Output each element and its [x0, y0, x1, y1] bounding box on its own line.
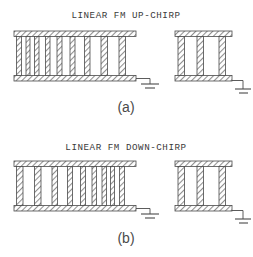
- short-idt-right-a: [175, 31, 232, 81]
- idt-finger: [35, 167, 42, 206]
- idt-finger: [197, 167, 204, 206]
- busbar-top: [175, 161, 232, 167]
- idt-finger: [46, 37, 51, 76]
- figure-canvas: LINEAR FM UP-CHIRP: [0, 0, 253, 257]
- idt-finger: [57, 37, 62, 76]
- idt-finger: [178, 167, 185, 206]
- short-idt-right-b: [175, 161, 232, 211]
- busbar-bottom: [14, 76, 136, 82]
- idt-finger: [85, 37, 91, 76]
- idt-finger: [26, 37, 30, 76]
- idt-finger: [17, 37, 22, 76]
- panel-b-title: LINEAR FM DOWN-CHIRP: [65, 142, 186, 153]
- busbar-bottom: [175, 206, 232, 212]
- panel-a-caption: (a): [117, 99, 134, 115]
- idt-finger: [178, 37, 185, 76]
- idt-finger: [101, 37, 108, 76]
- idt-finger: [119, 37, 126, 76]
- idt-finger: [102, 167, 107, 206]
- panel-a-title: LINEAR FM UP-CHIRP: [71, 10, 180, 21]
- idt-finger: [120, 167, 125, 206]
- busbar-bottom: [175, 76, 232, 82]
- idt-finger: [92, 167, 97, 206]
- idt-finger: [35, 37, 40, 76]
- idt-finger: [81, 167, 86, 206]
- idt-finger: [17, 167, 24, 206]
- idt-finger: [111, 167, 115, 206]
- idt-finger: [219, 167, 226, 206]
- saw-chirp-transducer-figure: LINEAR FM UP-CHIRP: [0, 0, 253, 257]
- panel-b-caption: (b): [117, 230, 134, 246]
- idt-finger: [52, 167, 58, 206]
- idt-finger: [197, 37, 204, 76]
- idt-finger: [70, 37, 75, 76]
- busbar-top: [175, 31, 232, 37]
- busbar-top: [14, 161, 136, 167]
- busbar-top: [14, 31, 136, 37]
- idt-finger: [219, 37, 226, 76]
- busbar-bottom: [14, 206, 136, 212]
- idt-finger: [68, 167, 73, 206]
